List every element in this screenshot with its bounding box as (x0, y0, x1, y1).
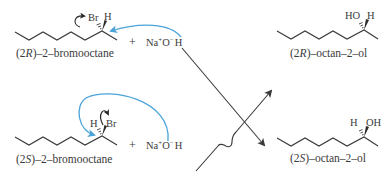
hash-bond (359, 23, 364, 29)
reagent-naoh: Na+O−H (146, 139, 183, 151)
carbon-chain (277, 137, 378, 146)
atom-h: H (90, 118, 98, 129)
leaving-group-arrow-icon (75, 16, 84, 27)
product-2r-octan-2-ol: HO H (2R)–octan–2–ol (277, 10, 378, 60)
product-2s-octan-2-ol: H OH (2S)–octan–2–ol (277, 117, 382, 165)
compound-label: (2R)–2–bromooctane (16, 47, 114, 60)
carbon-chain (277, 30, 378, 39)
atom-h: H (367, 10, 375, 21)
atom-br: Br (88, 12, 99, 23)
carbon-chain (15, 136, 117, 145)
reaction-arrow-to-2r-product (196, 91, 271, 171)
reaction-arrow-to-2s-product (182, 48, 264, 145)
reagent-naoh: Na+O−H (146, 36, 183, 48)
reaction-scheme: Br H (2R)–2–bromooctane + Na+O−H H Br (2 (0, 0, 390, 174)
compound-label: (2R)–octan–2–ol (290, 47, 367, 60)
reactant-2s-bromooctane: H Br (2S)–2–bromooctane + Na+O−H (15, 94, 183, 166)
carbon-chain (15, 31, 117, 40)
compound-label: (2S)–octan–2–ol (290, 152, 366, 165)
atom-br: Br (106, 118, 117, 129)
atom-h: H (104, 11, 112, 22)
hash-bond (97, 129, 102, 135)
plus-sign: + (129, 138, 136, 152)
hash-bond (359, 130, 364, 136)
atom-h: H (350, 117, 358, 128)
atom-oh: OH (366, 117, 382, 128)
hash-bond (97, 24, 102, 30)
reaction-arrows (182, 48, 271, 171)
plus-sign: + (129, 35, 136, 49)
reactant-2r-bromooctane: Br H (2R)–2–bromooctane + Na+O−H (15, 11, 183, 60)
atom-oh: HO (345, 10, 361, 21)
compound-label: (2S)–2–bromooctane (16, 153, 112, 166)
